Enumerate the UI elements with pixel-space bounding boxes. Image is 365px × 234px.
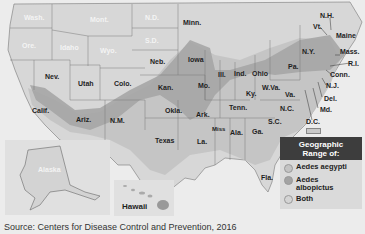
legend-item-both: Both bbox=[284, 195, 362, 205]
label-utah: Utah bbox=[78, 80, 94, 87]
label-nm: N.M. bbox=[110, 117, 125, 124]
label-texas: Texas bbox=[155, 137, 174, 144]
label-wash: Wash. bbox=[24, 14, 44, 21]
label-minn: Minn. bbox=[183, 19, 201, 26]
label-pa: Pa. bbox=[288, 63, 299, 70]
swatch-aegypti-icon bbox=[284, 164, 293, 173]
label-ky: Ky. bbox=[246, 90, 256, 97]
label-ala: Ala. bbox=[230, 129, 243, 136]
label-neb: Neb. bbox=[150, 58, 165, 65]
label-ri: R.I. bbox=[348, 60, 359, 67]
label-maine: Maine bbox=[336, 32, 356, 39]
label-alaska: Alaska bbox=[38, 166, 61, 173]
label-hawaii: Hawaii bbox=[122, 203, 147, 211]
dc-swatch bbox=[306, 128, 321, 134]
swatch-albopictus-icon bbox=[284, 176, 293, 185]
label-fla: Fla. bbox=[261, 174, 273, 181]
label-ark: Ark. bbox=[196, 111, 210, 118]
legend-label-both: Both bbox=[296, 195, 313, 203]
label-ohio: Ohio bbox=[252, 70, 268, 77]
legend-label-albopictus-2: albopictus bbox=[296, 183, 334, 192]
label-okla: Okla. bbox=[165, 107, 182, 114]
label-iowa: Iowa bbox=[188, 56, 204, 63]
label-ny: N.Y. bbox=[302, 48, 315, 55]
label-va: Va. bbox=[285, 91, 295, 98]
label-nc: N.C. bbox=[280, 105, 294, 112]
legend: Geographic Range of: Aedes aegypti Aedes… bbox=[280, 137, 362, 209]
label-del: Del. bbox=[324, 95, 337, 102]
swatch-both-icon bbox=[284, 195, 293, 204]
legend-item-albopictus: Aedes albopictus bbox=[284, 176, 362, 192]
legend-title-line2: Range of: bbox=[280, 149, 362, 158]
label-nh: N.H. bbox=[320, 12, 334, 19]
label-miss: Miss bbox=[212, 126, 225, 132]
label-wyo: Wyo. bbox=[100, 47, 117, 54]
label-calif: Calif. bbox=[32, 107, 49, 114]
label-kan: Kan. bbox=[158, 84, 173, 91]
label-sc: S.C. bbox=[268, 118, 282, 125]
label-tenn: Tenn. bbox=[229, 104, 247, 111]
label-vt: Vt. bbox=[313, 23, 322, 30]
label-nj: N.J. bbox=[326, 82, 339, 89]
label-la: La. bbox=[197, 138, 207, 145]
label-conn: Conn. bbox=[330, 71, 350, 78]
legend-label-albopictus: Aedes albopictus bbox=[296, 176, 334, 192]
label-ore: Ore. bbox=[22, 42, 36, 49]
label-ga: Ga. bbox=[252, 128, 263, 135]
label-ill: Ill. bbox=[218, 71, 226, 78]
legend-title: Geographic Range of: bbox=[280, 137, 362, 160]
label-idaho: Idaho bbox=[60, 44, 79, 51]
legend-title-line1: Geographic bbox=[280, 140, 362, 149]
label-sd: S.D. bbox=[145, 37, 159, 44]
label-ind: Ind. bbox=[234, 70, 246, 77]
source-caption: Source: Centers for Disease Control and … bbox=[4, 222, 237, 232]
label-mass: Mass. bbox=[340, 48, 359, 55]
legend-item-aegypti: Aedes aegypti bbox=[284, 163, 362, 173]
label-dc: D.C. bbox=[306, 118, 320, 125]
label-md: Md. bbox=[320, 106, 332, 113]
label-nd: N.D. bbox=[145, 14, 159, 21]
label-colo: Colo. bbox=[114, 80, 132, 87]
label-mo: Mo. bbox=[198, 82, 210, 89]
label-ariz: Ariz. bbox=[76, 116, 91, 123]
label-nev: Nev. bbox=[45, 73, 59, 80]
label-wva: W.Va. bbox=[262, 84, 280, 91]
label-mont: Mont. bbox=[90, 16, 109, 23]
legend-label-aegypti: Aedes aegypti bbox=[296, 163, 347, 171]
